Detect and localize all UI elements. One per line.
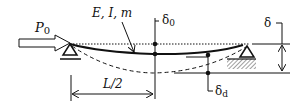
- delta-zero-label: δ0: [162, 13, 175, 28]
- half-length-label: L/2: [102, 77, 123, 91]
- properties-leader: [122, 22, 134, 52]
- properties-label: E, I, m: [91, 6, 132, 20]
- marker-dot: [153, 42, 158, 47]
- marker-dot: [153, 52, 158, 57]
- beam-diagram: P0 E, I, m δ0 δd δ L/2: [0, 0, 306, 106]
- delta-label: δ: [264, 16, 271, 30]
- load-arrow-icon: [19, 35, 70, 51]
- load-label: P0: [34, 20, 50, 36]
- delta-d-label: δd: [215, 84, 228, 99]
- roller-support-icon: [227, 46, 256, 69]
